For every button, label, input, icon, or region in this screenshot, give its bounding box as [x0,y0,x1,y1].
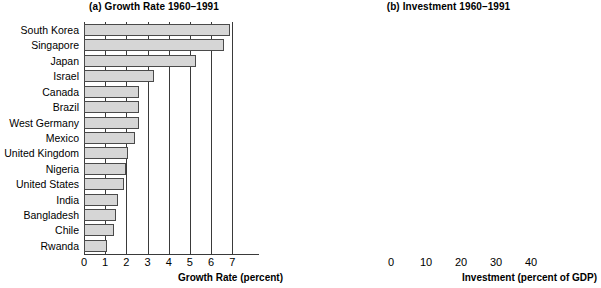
bar-category-label: Canada [42,85,79,99]
bar [84,55,196,67]
panel-b-axis-title: Investment (percent of GDP) [462,272,597,283]
bar-category-label: United States [16,177,79,191]
x-tick-label: 0 [81,256,87,268]
bar [84,224,114,236]
bar [84,24,230,36]
x-tick-label: 40 [525,256,537,268]
x-tick-label: 7 [229,256,235,268]
bar [84,132,135,144]
bar-row: Bangladesh [84,208,245,222]
bar-category-label: Bangladesh [24,208,79,222]
bar [84,39,224,51]
bar-row: India [84,193,245,207]
x-tick-label: 5 [187,256,193,268]
x-tick-label: 3 [144,256,150,268]
x-tick-label: 20 [455,256,467,268]
bar [84,209,116,221]
panel-a-x-axis-line [84,254,259,255]
x-tick-label: 30 [490,256,502,268]
bar-category-label: Chile [55,223,79,237]
bar-row: United States [84,177,245,191]
bar-row: Mexico [84,131,245,145]
bar [84,194,118,206]
bar-row: Chile [84,223,245,237]
bar-row: South Korea [84,23,245,37]
bar [84,117,139,129]
bar-category-label: United Kingdom [4,146,79,160]
panel-a-title: (a) Growth Rate 1960–1991 [4,1,304,12]
bar-category-label: Japan [50,54,79,68]
x-tick-label: 2 [123,256,129,268]
x-tick-label: 1 [102,256,108,268]
bar-row: Israel [84,69,245,83]
bar-row: Brazil [84,100,245,114]
panel-investment: (b) Investment 1960–1991 South KoreaSing… [300,0,601,288]
two-panel-bar-chart-figure: (a) Growth Rate 1960–1991 South KoreaSin… [0,0,601,288]
bar-row: Nigeria [84,162,245,176]
bar [84,147,128,159]
bar-row: Japan [84,54,245,68]
bar-row: Singapore [84,38,245,52]
bar-category-label: India [56,193,79,207]
x-tick-label: 0 [388,256,394,268]
bar [84,163,126,175]
bar-category-label: Brazil [53,100,79,114]
x-tick-label: 10 [420,256,432,268]
bar-category-label: Singapore [31,38,79,52]
panel-growth-rate: (a) Growth Rate 1960–1991 South KoreaSin… [0,0,300,288]
bar-category-label: Nigeria [46,162,79,176]
bar-row: United Kingdom [84,146,245,160]
x-tick-label: 6 [208,256,214,268]
bar-category-label: West Germany [9,116,79,130]
bar [84,178,124,190]
bar-category-label: Mexico [46,131,79,145]
bar-category-label: South Korea [21,23,79,37]
panel-b-title: (b) Investment 1960–1991 [298,1,599,12]
bar-category-label: Rwanda [40,239,79,253]
x-tick-label: 4 [166,256,172,268]
panel-a-axis-title: Growth Rate (percent) [178,272,283,283]
bar [84,70,154,82]
panel-a-bar-rows: South KoreaSingaporeJapanIsraelCanadaBra… [84,22,245,254]
panel-a-plot-area: South KoreaSingaporeJapanIsraelCanadaBra… [84,22,245,254]
bar [84,101,139,113]
bar-row: West Germany [84,116,245,130]
bar [84,240,107,252]
bar-row: Canada [84,85,245,99]
bar [84,86,139,98]
bar-category-label: Israel [53,69,79,83]
bar-row: Rwanda [84,239,245,253]
